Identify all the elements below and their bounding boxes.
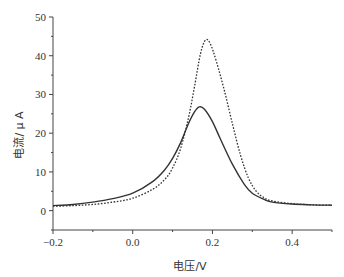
chart: 01020304050−0.20.00.20.4 电压/V 电流/ μ A	[0, 0, 344, 277]
x-tick-label: 0.2	[206, 236, 220, 248]
y-tick-label: 10	[35, 166, 47, 178]
series-dotted-line	[53, 39, 332, 206]
x-tick-label: 0.4	[285, 236, 299, 248]
y-tick-label: 30	[35, 88, 47, 100]
y-tick-label: 50	[35, 11, 47, 23]
axis-lines	[53, 17, 332, 230]
x-axis-title: 电压/V	[173, 260, 207, 273]
y-axis-title: 电流/ μ A	[12, 111, 26, 159]
y-tick-label: 40	[35, 50, 47, 62]
y-tick-label: 20	[35, 127, 47, 139]
y-tick-label: 0	[41, 205, 47, 217]
x-tick-label: −0.2	[43, 236, 63, 248]
axes: 01020304050−0.20.00.20.4	[35, 11, 332, 248]
plot-area	[53, 39, 332, 206]
series-solid-line	[53, 107, 332, 206]
x-tick-label: 0.0	[126, 236, 140, 248]
